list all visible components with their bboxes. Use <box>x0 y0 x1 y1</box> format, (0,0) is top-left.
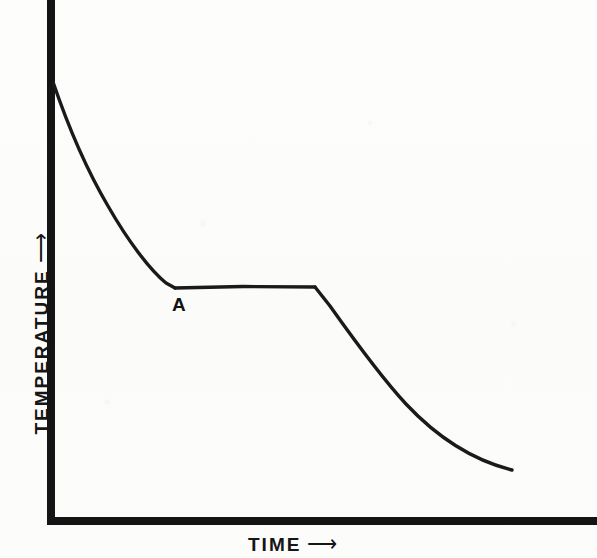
y-axis-title: TEMPERATURE⟶ <box>29 209 53 459</box>
y-axis-title-text: TEMPERATURE <box>31 269 52 434</box>
curve-initial-decay <box>53 82 175 288</box>
up-arrow-icon: ⟶ <box>29 233 52 269</box>
plot-area <box>0 0 597 558</box>
right-arrow-icon: ⟶ <box>301 532 337 555</box>
x-axis-line <box>47 517 597 525</box>
cooling-curve-figure: A TEMPERATURE⟶ TIME⟶ <box>0 0 597 558</box>
x-axis-title: TIME⟶ <box>248 532 337 556</box>
curve-final-decay <box>315 287 512 470</box>
curve-plateau <box>175 287 315 289</box>
plateau-start-label: A <box>172 294 186 316</box>
x-axis-title-text: TIME <box>248 534 301 555</box>
